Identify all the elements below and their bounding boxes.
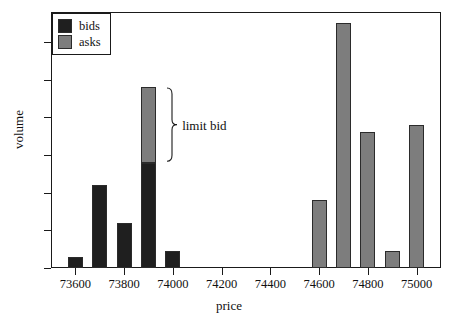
x-axis-tick — [417, 268, 418, 275]
bar — [165, 251, 180, 268]
legend-item-asks: asks — [58, 34, 101, 50]
bar-segment-asks — [409, 125, 424, 268]
bar — [312, 200, 327, 268]
x-axis-tick-label: 74400 — [255, 278, 286, 291]
x-axis-tick-label: 73800 — [109, 278, 140, 291]
bar-segment-asks — [385, 251, 400, 268]
legend-label-bids: bids — [79, 20, 100, 33]
bar-segment-asks — [312, 200, 327, 268]
bar-segment-bids — [141, 163, 156, 268]
legend-label-asks: asks — [79, 36, 101, 49]
chart-figure: 0102030405060 73600738007400074200744007… — [0, 0, 458, 329]
legend-swatch-asks — [58, 35, 72, 49]
bar — [141, 87, 156, 268]
y-axis-tick — [44, 80, 51, 81]
curly-brace-icon — [163, 87, 181, 162]
bar — [385, 251, 400, 268]
x-axis-title: price — [0, 299, 458, 312]
legend: bids asks — [52, 13, 111, 55]
bar-segment-asks — [141, 87, 156, 162]
x-axis-tick-label: 74600 — [304, 278, 335, 291]
x-axis-tick — [124, 268, 125, 275]
bar — [409, 125, 424, 268]
bar — [360, 132, 375, 268]
bar-segment-asks — [336, 23, 351, 268]
bar-segment-bids — [92, 185, 107, 268]
x-axis-tick — [222, 268, 223, 275]
y-axis-tick — [44, 193, 51, 194]
y-axis-tick — [44, 155, 51, 156]
limit-bid-annotation: limit bid — [163, 87, 283, 162]
y-axis-tick — [44, 268, 51, 269]
legend-swatch-bids — [58, 19, 72, 33]
x-axis-tick-label: 74000 — [157, 278, 188, 291]
bar-segment-bids — [68, 257, 83, 268]
x-axis-tick — [319, 268, 320, 275]
x-axis-tick — [75, 268, 76, 275]
x-axis-tick — [270, 268, 271, 275]
bar-segment-asks — [360, 132, 375, 268]
legend-item-bids: bids — [58, 18, 101, 34]
x-axis-tick — [368, 268, 369, 275]
y-axis-tick — [44, 42, 51, 43]
bar-segment-bids — [165, 251, 180, 268]
bar — [336, 23, 351, 268]
limit-bid-label: limit bid — [182, 118, 226, 131]
bar — [117, 223, 132, 268]
x-axis-tick-label: 75000 — [401, 278, 432, 291]
x-axis-tick-label: 73600 — [60, 278, 91, 291]
bar — [68, 257, 83, 268]
x-axis-tick-label: 74800 — [352, 278, 383, 291]
x-axis-tick-label: 74200 — [206, 278, 237, 291]
y-axis-title: volume — [12, 90, 25, 170]
y-axis-tick — [44, 230, 51, 231]
bar-segment-bids — [117, 223, 132, 268]
y-axis-tick — [44, 117, 51, 118]
x-axis-tick — [173, 268, 174, 275]
bar — [92, 185, 107, 268]
